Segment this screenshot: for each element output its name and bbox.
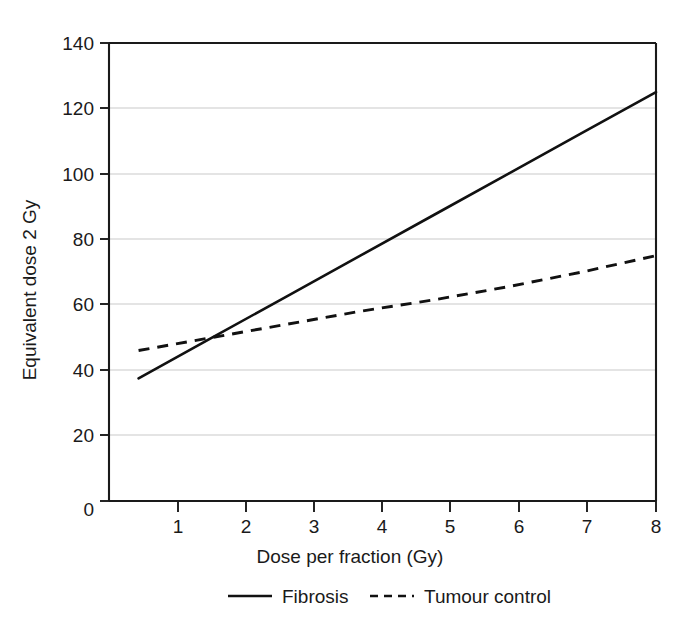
legend-label-tumour-control: Tumour control — [424, 586, 551, 607]
y-tick-labels: 140 120 100 80 60 40 20 0 — [62, 33, 94, 520]
y-tick-marks — [100, 43, 109, 501]
x-axis-title: Dose per fraction (Gy) — [257, 546, 444, 567]
y-tick-label-100: 100 — [62, 164, 94, 185]
x-tick-labels: 1 2 3 4 5 6 7 8 — [173, 516, 662, 537]
x-tick-label-6: 6 — [514, 516, 525, 537]
y-tick-label-0: 0 — [83, 499, 94, 520]
chart-figure: 140 120 100 80 60 40 20 0 1 2 3 4 5 — [0, 0, 675, 627]
x-tick-marks — [178, 501, 656, 512]
plot-area — [109, 43, 656, 501]
y-axis-title: Equivalent dose 2 Gy — [19, 199, 40, 380]
x-tick-label-7: 7 — [582, 516, 593, 537]
x-tick-label-4: 4 — [377, 516, 388, 537]
x-tick-label-5: 5 — [445, 516, 456, 537]
x-tick-label-1: 1 — [173, 516, 184, 537]
x-tick-label-8: 8 — [651, 516, 662, 537]
line-chart: 140 120 100 80 60 40 20 0 1 2 3 4 5 — [0, 0, 675, 627]
x-tick-label-2: 2 — [241, 516, 252, 537]
y-tick-label-40: 40 — [73, 360, 94, 381]
y-tick-label-120: 120 — [62, 98, 94, 119]
legend-label-fibrosis: Fibrosis — [282, 586, 349, 607]
y-tick-label-60: 60 — [73, 294, 94, 315]
y-tick-label-140: 140 — [62, 33, 94, 54]
x-tick-label-3: 3 — [309, 516, 320, 537]
y-tick-label-20: 20 — [73, 425, 94, 446]
y-tick-label-80: 80 — [73, 229, 94, 250]
legend: Fibrosis Tumour control — [228, 586, 551, 607]
